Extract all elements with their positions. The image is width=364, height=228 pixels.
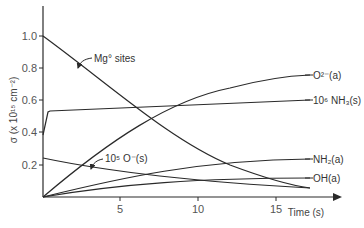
y-tick-label: 1.0	[22, 30, 37, 42]
x-axis-arrow-icon	[333, 193, 342, 201]
chart: 1.0 0.8 0.6 0.4 0.2 5 10 15 Time (s) σ (…	[0, 0, 364, 228]
o2-a-label: O²⁻(a)	[313, 70, 341, 81]
mg-sites-pointer	[78, 58, 92, 68]
nh2-a-label: NH₂(a)	[313, 154, 344, 165]
y-axis-title: σ (x 10¹⁵ cm⁻²)	[8, 77, 19, 143]
y-tick-label: 0.8	[22, 62, 37, 74]
mg-sites-label: Mg° sites	[94, 53, 135, 64]
y-ticks: 1.0 0.8 0.6 0.4 0.2	[22, 30, 43, 171]
x-tick-label: 15	[270, 203, 282, 215]
nh3-s-curve	[43, 100, 310, 135]
x-tick-label: 5	[117, 203, 123, 215]
x-axis-title: Time (s)	[288, 207, 324, 218]
y-tick-label: 0.4	[22, 126, 37, 138]
y-tick-label: 0.2	[22, 159, 37, 171]
o-s-label: 10⁵ O⁻(s)	[105, 153, 148, 164]
x-tick-label: 10	[192, 203, 204, 215]
o-s-curve	[43, 158, 310, 188]
nh3-s-label: 10⁶ NH₃(s)	[313, 95, 361, 106]
x-ticks: 5 10 15	[117, 197, 282, 215]
y-tick-label: 0.6	[22, 94, 37, 106]
oh-a-label: OH(a)	[313, 173, 340, 184]
